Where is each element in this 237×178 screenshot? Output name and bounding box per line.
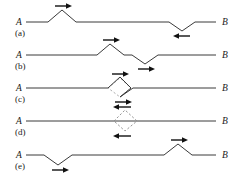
panel-d-right-endpoint-label: B xyxy=(222,116,228,126)
figure-background xyxy=(0,0,237,178)
panel-e-left-endpoint-label: A xyxy=(15,150,22,160)
panel-a-left-endpoint-label: A xyxy=(15,17,22,27)
panel-b-caption: (b) xyxy=(15,61,26,71)
panel-a-caption: (a) xyxy=(15,28,25,38)
panel-e-right-endpoint-label: B xyxy=(222,150,228,160)
panel-c-left-endpoint-label: A xyxy=(15,83,22,93)
panel-a-right-endpoint-label: B xyxy=(222,17,228,27)
panel-c-right-endpoint-label: B xyxy=(222,83,228,93)
panel-c-caption: (c) xyxy=(15,94,25,104)
panel-d-left-endpoint-label: A xyxy=(15,116,22,126)
kink-propagation-figure: A B (a) A B (b) A B (c) xyxy=(0,0,237,178)
panel-b-right-endpoint-label: B xyxy=(222,50,228,60)
panel-b-left-endpoint-label: A xyxy=(15,50,22,60)
panel-e-caption: (e) xyxy=(15,161,25,171)
panel-d-caption: (d) xyxy=(15,127,26,137)
